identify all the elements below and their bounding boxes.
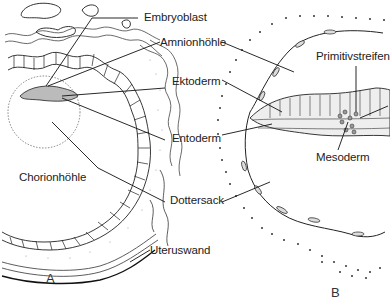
leader-lines-a	[46, 18, 165, 262]
label-chorionhoehle: Chorionhöhle	[19, 172, 86, 184]
membrane-waves	[5, 27, 182, 176]
embryo-disc-a	[20, 86, 78, 101]
label-embryoblast: Embryoblast	[144, 12, 207, 24]
label-mesoderm: Mesoderm	[316, 152, 370, 164]
panel-letter-b: B	[331, 286, 340, 299]
label-amnionhoehle: Amnionhöhle	[160, 37, 226, 49]
label-dottersack: Dottersack	[170, 195, 224, 207]
label-uteruswand: Uteruswand	[150, 245, 210, 257]
cell-dividers	[10, 52, 150, 250]
uterine-layers	[2, 170, 168, 276]
label-ektoderm: Ektoderm	[172, 76, 220, 88]
panel-letter-a: A	[46, 272, 55, 285]
label-entoderm: Entoderm	[172, 133, 221, 145]
embryo-diagram: Embryoblast Amnionhöhle Ektoderm Entoder…	[0, 0, 390, 300]
uterine-wall	[2, 250, 155, 283]
label-primitivstreifen: Primitivstreifen	[316, 51, 390, 63]
trophoblast-lacunae	[21, 3, 130, 37]
